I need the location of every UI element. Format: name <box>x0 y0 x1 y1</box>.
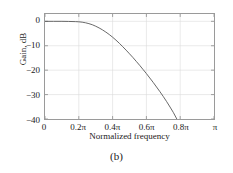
figure: 0−10−20−30−40 00.2π0.4π0.6π0.8ππ Gain, d… <box>0 0 233 173</box>
figure-caption: (b) <box>0 150 233 162</box>
tick-marks <box>45 14 214 119</box>
x-axis-title: Normalized frequency <box>44 131 215 141</box>
plot-svg <box>45 14 214 119</box>
y-axis-title: Gain, dB <box>18 17 28 81</box>
plot-area <box>44 13 215 120</box>
gridlines <box>45 14 214 119</box>
y-tick-label: −30 <box>8 91 40 100</box>
